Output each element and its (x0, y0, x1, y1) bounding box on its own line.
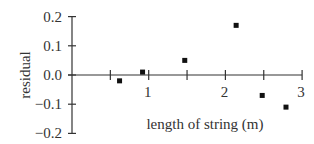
residual-scatter-plot: 0.20.10.0−0.1−0.2 123 residual length of… (0, 0, 314, 144)
data-points (117, 23, 288, 110)
y-tick-label: −0.1 (35, 96, 62, 112)
x-tick-label: 3 (297, 84, 305, 100)
y-tick-label: 0.0 (43, 67, 62, 83)
data-point-marker (182, 58, 187, 63)
data-point-marker (283, 105, 288, 110)
x-axis-title: length of string (m) (146, 116, 263, 133)
y-axis-ticks: 0.20.10.0−0.1−0.2 (35, 9, 76, 142)
data-point-marker (234, 23, 239, 28)
x-tick-label: 1 (144, 84, 152, 100)
y-tick-label: −0.2 (35, 125, 62, 141)
y-tick-label: 0.1 (43, 38, 62, 54)
y-axis-title: residual (17, 51, 33, 98)
y-tick-label: 0.2 (43, 9, 62, 25)
x-tick-label: 2 (221, 84, 229, 100)
data-point-marker (140, 70, 145, 75)
data-point-marker (117, 78, 122, 83)
data-point-marker (260, 93, 265, 98)
